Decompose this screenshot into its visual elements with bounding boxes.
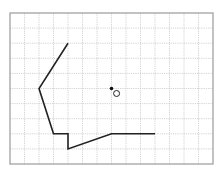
hollow-circle bbox=[114, 90, 120, 96]
drawn-polyline bbox=[39, 43, 155, 149]
grid-diagram bbox=[0, 0, 217, 172]
filled-dot bbox=[110, 87, 114, 91]
